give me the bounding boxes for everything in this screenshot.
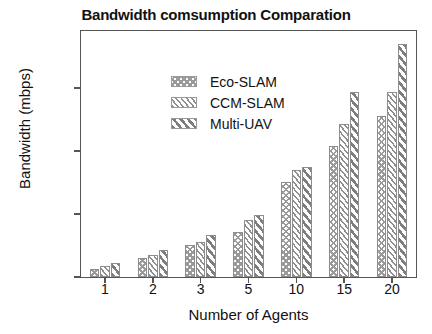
x-tick-mark-10: [296, 278, 298, 283]
legend-label: Multi-UAV: [210, 116, 272, 132]
x-tick-mark-3: [200, 278, 202, 283]
legend-swatch-icon-ccm-slam: [171, 97, 197, 108]
x-axis-title: Number of Agents: [80, 306, 417, 323]
legend-item-multi-uav[interactable]: Multi-UAV: [171, 113, 315, 134]
x-tick-mark-2: [152, 278, 154, 283]
x-tick-label-1: 1: [85, 282, 125, 296]
x-tick-mark-5: [248, 278, 250, 283]
x-tick-mark-20: [391, 278, 393, 283]
bar-multi-uav-10: [302, 167, 312, 277]
bar-eco-slam-20: [377, 116, 387, 277]
legend-swatch-icon-eco-slam: [171, 76, 197, 87]
bar-multi-uav-3: [206, 235, 216, 277]
bar-multi-uav-20: [398, 44, 408, 277]
bar-eco-slam-1: [90, 269, 100, 277]
chart-title: Bandwidth comsumption Comparation: [0, 6, 432, 23]
bar-ccm-slam-20: [387, 92, 397, 277]
x-tick-mark-15: [343, 278, 345, 283]
legend-label: CCM-SLAM: [210, 95, 285, 111]
plot-area: Eco-SLAMCCM-SLAMMulti-UAV: [80, 30, 417, 278]
bar-eco-slam-2: [138, 258, 148, 277]
x-tick-label-3: 3: [181, 282, 221, 296]
y-axis-title: Bandwidth (mbps): [16, 19, 33, 239]
x-tick-mark-1: [104, 278, 106, 283]
bar-multi-uav-1: [111, 263, 121, 277]
bar-ccm-slam-1: [100, 266, 110, 277]
x-tick-label-2: 2: [133, 282, 173, 296]
x-tick-label-20: 20: [372, 282, 412, 296]
legend-swatch-icon-multi-uav: [171, 118, 197, 129]
bar-multi-uav-15: [350, 92, 360, 277]
bar-ccm-slam-3: [196, 242, 206, 277]
legend: Eco-SLAMCCM-SLAMMulti-UAV: [167, 67, 319, 138]
bar-eco-slam-15: [329, 146, 339, 277]
x-tick-label-15: 15: [324, 282, 364, 296]
bar-eco-slam-10: [281, 182, 291, 277]
legend-item-eco-slam[interactable]: Eco-SLAM: [171, 71, 315, 92]
bar-eco-slam-5: [233, 232, 243, 277]
bar-eco-slam-3: [185, 245, 195, 277]
bar-ccm-slam-5: [244, 220, 254, 277]
bar-ccm-slam-10: [292, 170, 302, 277]
bar-ccm-slam-2: [148, 255, 158, 277]
x-tick-label-10: 10: [276, 282, 316, 296]
bar-ccm-slam-15: [339, 124, 349, 277]
x-tick-label-5: 5: [229, 282, 269, 296]
figure: Bandwidth comsumption Comparation Bandwi…: [0, 0, 432, 334]
bar-multi-uav-5: [254, 215, 264, 277]
bar-multi-uav-2: [159, 250, 169, 277]
legend-item-ccm-slam[interactable]: CCM-SLAM: [171, 92, 315, 113]
legend-label: Eco-SLAM: [210, 74, 277, 90]
